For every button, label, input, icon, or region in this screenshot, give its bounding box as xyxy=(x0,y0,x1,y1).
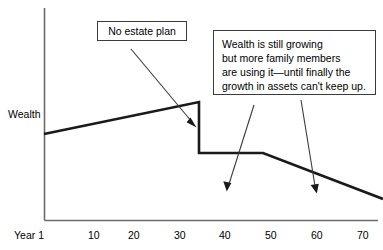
x-tick-label-20: 20 xyxy=(128,229,140,241)
wealth-series-line xyxy=(44,102,383,199)
annotation-arrow-no-estate-plan xyxy=(131,49,197,128)
callout-line-1: Wealth is still growing xyxy=(222,37,367,51)
wealth-no-estate-plan-chart: Wealth Year 1 10 20 30 40 50 60 70 No es… xyxy=(0,0,383,250)
x-tick-label-10: 10 xyxy=(88,229,100,241)
annotation-arrow-decline xyxy=(301,100,319,194)
x-tick-label-50: 50 xyxy=(265,229,277,241)
annotation-arrow-plateau xyxy=(223,105,254,192)
callout-line-4: growth in assets can't keep up. xyxy=(222,79,367,93)
callout-line-3: are using it—until finally the xyxy=(222,65,367,79)
x-tick-label-40: 40 xyxy=(219,229,231,241)
x-tick-label-70: 70 xyxy=(357,229,369,241)
x-tick-label-30: 30 xyxy=(174,229,186,241)
callout-wealth-still-growing: Wealth is still growing but more family … xyxy=(213,30,376,95)
x-tick-label-year-1: Year 1 xyxy=(14,229,44,241)
y-axis-label: Wealth xyxy=(8,108,41,120)
callout-no-estate-plan: No estate plan xyxy=(97,21,187,41)
x-tick-label-60: 60 xyxy=(311,229,323,241)
callout-line-2: but more family members xyxy=(222,51,367,65)
